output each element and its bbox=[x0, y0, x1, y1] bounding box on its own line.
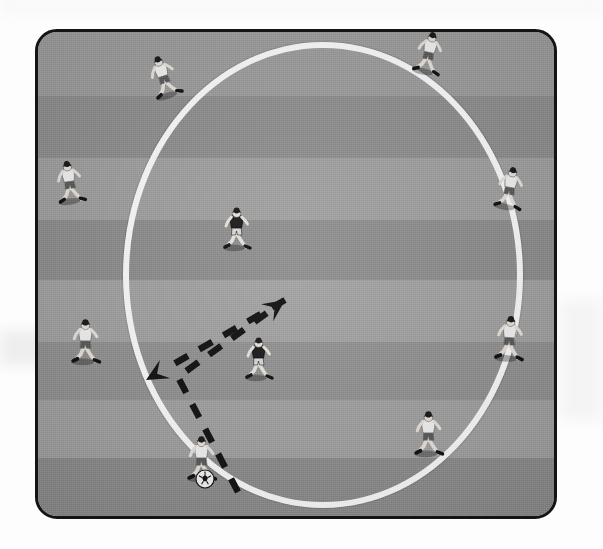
soccer-ball-icon bbox=[195, 469, 215, 493]
pitch-area bbox=[35, 29, 557, 519]
player-left-upper bbox=[53, 158, 93, 208]
defender-center-lower bbox=[245, 337, 279, 383]
player-right-lower bbox=[494, 315, 533, 366]
drill-diagram-scene bbox=[0, 0, 603, 549]
defender-center-upper bbox=[223, 207, 257, 253]
player-bottom-right bbox=[414, 411, 450, 459]
scan-artifact-top bbox=[0, 0, 603, 12]
scan-artifact-right bbox=[560, 300, 603, 420]
center-circle-marking bbox=[123, 42, 523, 508]
player-left-lower bbox=[71, 319, 107, 367]
